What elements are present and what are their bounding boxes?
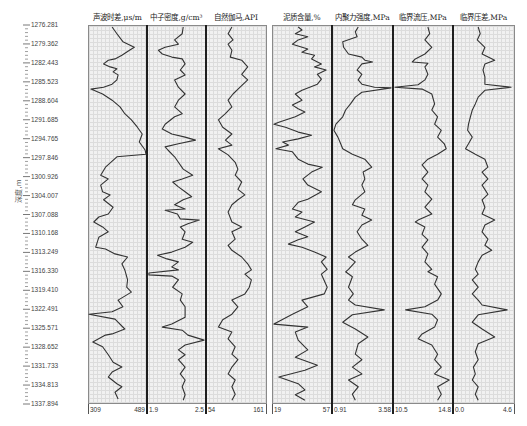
depth-tick-label: 1297.846 [31,154,58,162]
depth-tick-label: 1288.604 [31,97,58,105]
scale-min-label: 309 [90,405,101,414]
depth-tick-label: 1337.894 [31,400,58,408]
depth-tick-label: 1313.249 [31,248,58,256]
track-header: 声波时差,μs/m [84,12,151,23]
track-header: 内聚力强度,MPa [328,12,397,23]
depth-tick-label: 1276.281 [31,21,58,29]
depth-tick-label: 1307.088 [31,211,58,219]
scale-min-label: 1.9 [149,405,158,414]
scale-min-label: 54 [208,405,215,414]
scale-max-label: 161 [253,405,264,414]
depth-tick-label: 1319.410 [31,286,58,294]
track-separator [205,25,207,414]
scale-max-label: 3.58 [378,405,391,414]
depth-tick-label: 1279.362 [31,40,58,48]
track-separator [452,25,454,414]
track-header: 中子密度,g/cm³ [143,12,210,23]
track-neutron-density: 中子密度,g/cm³ 1.9 2.5 [147,10,206,418]
track-shale-content: 泥质含量,% 19 57 [272,10,332,418]
scale-max-label: 2.5 [195,405,204,414]
depth-tick-label: 1294.765 [31,135,58,143]
scale-max-label: 4.6 [503,405,512,414]
scale-min-label: 0.0 [455,405,464,414]
panel-edge-tick [88,404,89,414]
track-acoustic-slowness: 声波时差,μs/m 309 489 [88,10,147,418]
track-cohesive-strength: 内聚力强度,MPa 0.91 3.58 [332,10,393,418]
panel-edge-tick [266,404,267,414]
track-separator [392,25,394,414]
well-log-chart: 深度,m 1276.2811279.3621282.4431285.523128… [0,0,527,426]
track-gamma-ray: 自然伽马,API 54 161 [206,10,266,418]
track-header: 泥质含量,% [268,12,336,23]
track-critical-pressure-difference: 临界压差,MPa 0.0 4.6 [453,10,514,418]
panel-edge-tick [272,404,273,414]
depth-tick-label: 1310.168 [31,229,58,237]
track-header: 临界压差,MPa [449,12,518,23]
depth-tick-label: 1304.007 [31,192,58,200]
depth-tick-label: 1322.491 [31,305,58,313]
scale-max-label: 57 [323,405,330,414]
depth-tick-label: 1316.330 [31,267,58,275]
depth-tick-label: 1285.523 [31,78,58,86]
scale-max-label: 489 [134,405,145,414]
track-critical-flowing-pressure: 临界流压,MPa 10.5 14.8 [393,10,453,418]
depth-tick-label: 1328.652 [31,343,58,351]
scale-min-label: 10.5 [395,405,408,414]
depth-tick-label: 1325.571 [31,324,58,332]
scale-max-label: 14.8 [438,405,451,414]
depth-tick-label: 1291.685 [31,116,58,124]
track-header: 自然伽马,API [202,12,270,23]
track-separator [331,25,333,414]
panel-edge-tick [514,404,515,414]
scale-min-label: 0.91 [334,405,347,414]
track-header: 临界流压,MPa [389,12,457,23]
depth-tick-label: 1334.813 [31,381,58,389]
scale-min-label: 19 [274,405,281,414]
track-separator [146,25,148,414]
depth-tick-label: 1300.926 [31,173,58,181]
depth-tick-label: 1331.733 [31,362,58,370]
depth-tick-label: 1282.443 [31,59,58,67]
